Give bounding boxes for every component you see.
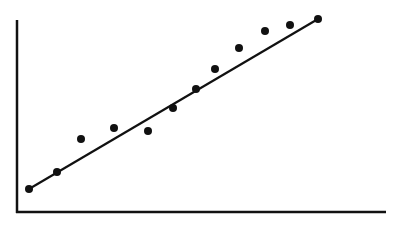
data-point: [235, 44, 243, 52]
trend-line: [29, 19, 318, 189]
data-point: [53, 168, 61, 176]
data-point: [110, 124, 118, 132]
data-point: [25, 185, 33, 193]
data-point: [286, 21, 294, 29]
data-point: [169, 104, 177, 112]
data-point: [211, 65, 219, 73]
data-point: [314, 15, 322, 23]
scatter-chart: [0, 0, 402, 227]
data-point: [261, 27, 269, 35]
data-point: [77, 135, 85, 143]
data-point: [192, 85, 200, 93]
data-point: [144, 127, 152, 135]
